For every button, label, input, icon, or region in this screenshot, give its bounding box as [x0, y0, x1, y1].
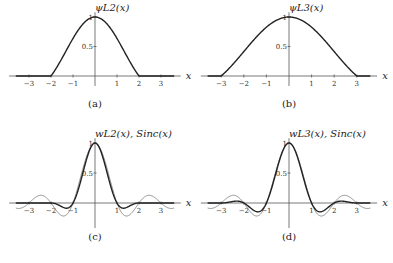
- figure: −3−2−11230.51xψL2(x)(a)−3−2−11230.51xψL3…: [0, 0, 393, 263]
- x-tick-label: 2: [332, 207, 336, 215]
- x-tick-label: 3: [355, 207, 359, 215]
- x-tick-label: 2: [137, 207, 141, 215]
- panel-title-c: wL2(x), Sinc(x): [95, 128, 172, 139]
- panel-title-b: ψL3(x): [289, 2, 323, 13]
- x-tick-label: 1: [309, 207, 313, 215]
- x-tick-label: −2: [46, 80, 56, 88]
- x-tick-label: 1: [115, 80, 119, 88]
- x-tick-label: 2: [137, 80, 141, 88]
- x-tick-label: 3: [159, 80, 163, 88]
- x-tick-label: −3: [24, 207, 34, 215]
- x-axis-label: x: [186, 70, 192, 81]
- x-tick-label: −3: [216, 207, 226, 215]
- panel-caption-b: (b): [282, 98, 296, 109]
- y-tick-label: 0.5: [276, 170, 287, 178]
- x-axis-label: x: [382, 197, 388, 208]
- panel-caption-d: (d): [282, 231, 296, 242]
- x-tick-label: 1: [309, 80, 313, 88]
- x-tick-label: 3: [159, 207, 163, 215]
- x-axis-label: x: [186, 197, 192, 208]
- panel-caption-a: (a): [88, 98, 102, 109]
- x-tick-label: 2: [332, 80, 336, 88]
- y-tick-label: 0.5: [82, 43, 93, 51]
- panel-title-a: ψL2(x): [95, 2, 129, 13]
- panel-title-d: wL3(x), Sinc(x): [289, 128, 366, 139]
- x-tick-label: 1: [115, 207, 119, 215]
- x-tick-label: −1: [261, 80, 271, 88]
- x-tick-label: −3: [24, 80, 34, 88]
- panel-caption-c: (c): [88, 231, 102, 242]
- x-tick-label: −3: [216, 80, 226, 88]
- x-tick-label: 3: [355, 80, 359, 88]
- x-axis-label: x: [382, 70, 388, 81]
- x-tick-label: −1: [68, 80, 78, 88]
- y-tick-label: 0.5: [276, 43, 287, 51]
- x-tick-label: −2: [239, 80, 249, 88]
